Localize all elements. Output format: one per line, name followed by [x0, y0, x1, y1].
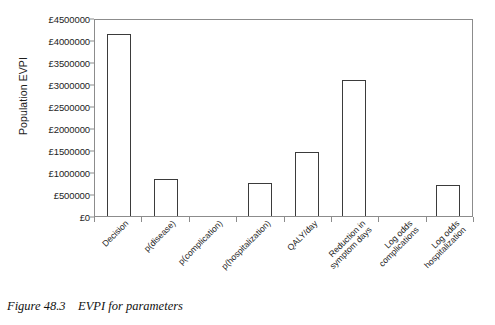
y-axis-tick-label: £4000000 [28, 36, 90, 47]
bar-qaly-day [295, 152, 319, 216]
bar-slot [142, 20, 189, 216]
bar-slot [95, 20, 142, 216]
bar-slot [378, 20, 425, 216]
y-axis-tick-label: £4500000 [28, 14, 90, 25]
bar-slot [189, 20, 236, 216]
bar-log-odds-hospitalization [436, 185, 460, 216]
bar-p-hospitalization [248, 183, 272, 216]
y-axis-tick-label: £3500000 [28, 58, 90, 69]
bar-slot [284, 20, 331, 216]
y-axis-tick-mark [90, 129, 94, 130]
plot-area [94, 19, 473, 217]
x-axis-tick-label: p(complication) [177, 219, 225, 267]
bar-p-disease [154, 179, 178, 216]
y-axis-tick-mark [90, 107, 94, 108]
y-axis-tick-mark [90, 63, 94, 64]
figure-caption: Figure 48.3 EVPI for parameters [7, 299, 183, 314]
x-axis-tick-label: Decision [100, 219, 130, 249]
y-axis-tick-label: £500000 [28, 190, 90, 201]
y-axis-tick-mark [90, 151, 94, 152]
y-axis-tick-label: £0 [28, 212, 90, 223]
bar-slot [331, 20, 378, 216]
bar-reduction-in-symptom-days [342, 80, 366, 216]
x-axis-tick-label: Log odds complications [371, 219, 421, 269]
bar-slot [236, 20, 283, 216]
y-axis-tick-labels: £0£500000£1000000£1500000£2000000£250000… [28, 0, 90, 230]
y-axis-tick-mark [90, 195, 94, 196]
x-axis-tick-labels: Decisionp(disease)p(complication)p(hospi… [94, 219, 473, 304]
y-axis-tick-label: £2500000 [28, 102, 90, 113]
bar-slot [425, 20, 472, 216]
x-axis-tick-label: Log odds hospitalization [417, 219, 469, 271]
x-axis-tick-label: p(hospitalization) [220, 219, 273, 272]
x-axis-tick-mark [473, 217, 474, 222]
y-axis-tick-mark [90, 41, 94, 42]
x-axis-tick-label: QALY/day [286, 219, 320, 253]
y-axis-tick-label: £1000000 [28, 168, 90, 179]
y-axis-tick-mark [90, 217, 94, 218]
y-axis-tick-label: £1500000 [28, 146, 90, 157]
y-axis-tick-label: £3000000 [28, 80, 90, 91]
y-axis-tick-mark [90, 173, 94, 174]
bar-decision [107, 34, 131, 216]
x-axis-tick-label: Reduction in symptom days [321, 219, 373, 271]
bar-series [95, 20, 472, 216]
y-axis-tick-mark [90, 19, 94, 20]
figure-container: Population EVPI £0£500000£1000000£150000… [0, 0, 495, 325]
y-axis-tick-mark [90, 85, 94, 86]
x-axis-tick-label: p(disease) [143, 219, 178, 254]
y-axis-tick-label: £2000000 [28, 124, 90, 135]
